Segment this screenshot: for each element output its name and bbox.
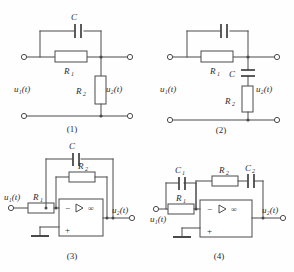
c1-output-terminal-bottom [127,113,132,118]
c4-resistor-r2 [212,176,238,186]
c1-output-label: u₂(t) [106,84,122,94]
c1-label-r1-sub: 1 [71,71,74,77]
c1-label-r2-sub: 2 [83,91,86,97]
c2-junction-top [246,55,249,58]
c1-junction-bottom [99,114,102,117]
c3-input-label: u₁(t) [4,192,20,202]
c2-input-terminal-top [167,54,172,59]
c4-output-node [262,217,265,220]
c3-resistor-r2 [69,172,95,182]
c3-inverting-node [55,207,58,210]
c3-output-label: u₂(t) [112,205,128,215]
c4-opamp-inverting-sign: − [207,204,212,214]
c3-input-terminal [8,205,13,210]
c2-label-r1-sub: 1 [217,71,220,77]
c3-output-node-a [106,217,109,220]
c1-junction-top [99,55,102,58]
c3-cap-node [45,207,48,210]
c2-resistor-r1 [201,51,233,62]
c4-label-r1-sub: 1 [183,198,186,204]
c4-opamp-gain-symbol: ∞ [231,205,237,214]
circuit-1 [21,24,132,119]
c3-resistor-r1 [28,203,54,213]
c3-opamp-inverting-sign: − [65,203,70,213]
c2-input-label: u₁(t) [160,84,176,94]
c3-caption: (3) [67,251,78,261]
c1-output-terminal-top [127,54,132,59]
c2-resistor-r2 [242,86,253,112]
c3-label-r2: R [77,161,84,171]
c2-label-r2: R [224,96,231,106]
circuit-2 [167,24,279,123]
c3-label-r2-sub: 2 [85,166,88,172]
c3-output-terminal [129,215,134,220]
c4-inverting-node [195,208,198,211]
c4-output-label: u₂(t) [262,205,278,215]
c2-input-terminal-bottom [167,117,172,122]
c2-label-r2-sub: 2 [232,101,235,107]
c2-output-terminal-top [274,54,279,59]
c4-output-terminal [280,215,285,220]
c3-label-r1: R [32,192,39,202]
c4-label-r2: R [218,165,225,175]
c4-label-c2-sub: 2 [252,168,255,174]
c4-label-r1: R [175,193,182,203]
c2-caption: (2) [216,125,227,135]
c2-output-terminal-bottom [274,117,279,122]
c1-input-terminal-bottom [21,113,26,118]
c1-input-label: u₁(t) [14,84,30,94]
c4-resistor-r1 [168,204,194,214]
c1-resistor-r1 [55,51,87,62]
c4-caption: (4) [214,251,225,261]
c1-input-terminal-top [21,54,26,59]
circuit-3 [8,153,134,236]
c3-opamp-gain-symbol: ∞ [88,204,94,213]
c3-label-c: C [69,141,76,151]
c1-label-r1: R [63,66,70,76]
c4-input-label: u₁(t) [150,214,166,224]
c4-label-r2-sub: 2 [226,170,229,176]
c4-input-terminal [153,206,158,211]
c4-label-c1-sub: 1 [182,170,185,176]
circuit-diagram-page: C R 1 R 2 u₁(t) u₂(t) (1) R 1 C [0,0,294,272]
c4-opamp-noninverting-sign: + [207,226,212,236]
c3-output-node-b [112,217,115,220]
c2-output-label: u₂(t) [256,84,272,94]
c4-label-c2: C [245,163,252,173]
c3-label-r1-sub: 1 [40,197,43,203]
c4-label-c1: C [175,165,182,175]
c2-junction-bottom [246,118,249,121]
c1-caption: (1) [67,124,78,134]
c1-label-c: C [71,12,78,22]
c2-label-r1: R [209,66,216,76]
c1-label-r2: R [75,86,82,96]
c2-label-c: C [229,69,236,79]
c3-opamp-noninverting-sign: + [65,225,70,235]
c1-resistor-r2 [95,76,106,104]
